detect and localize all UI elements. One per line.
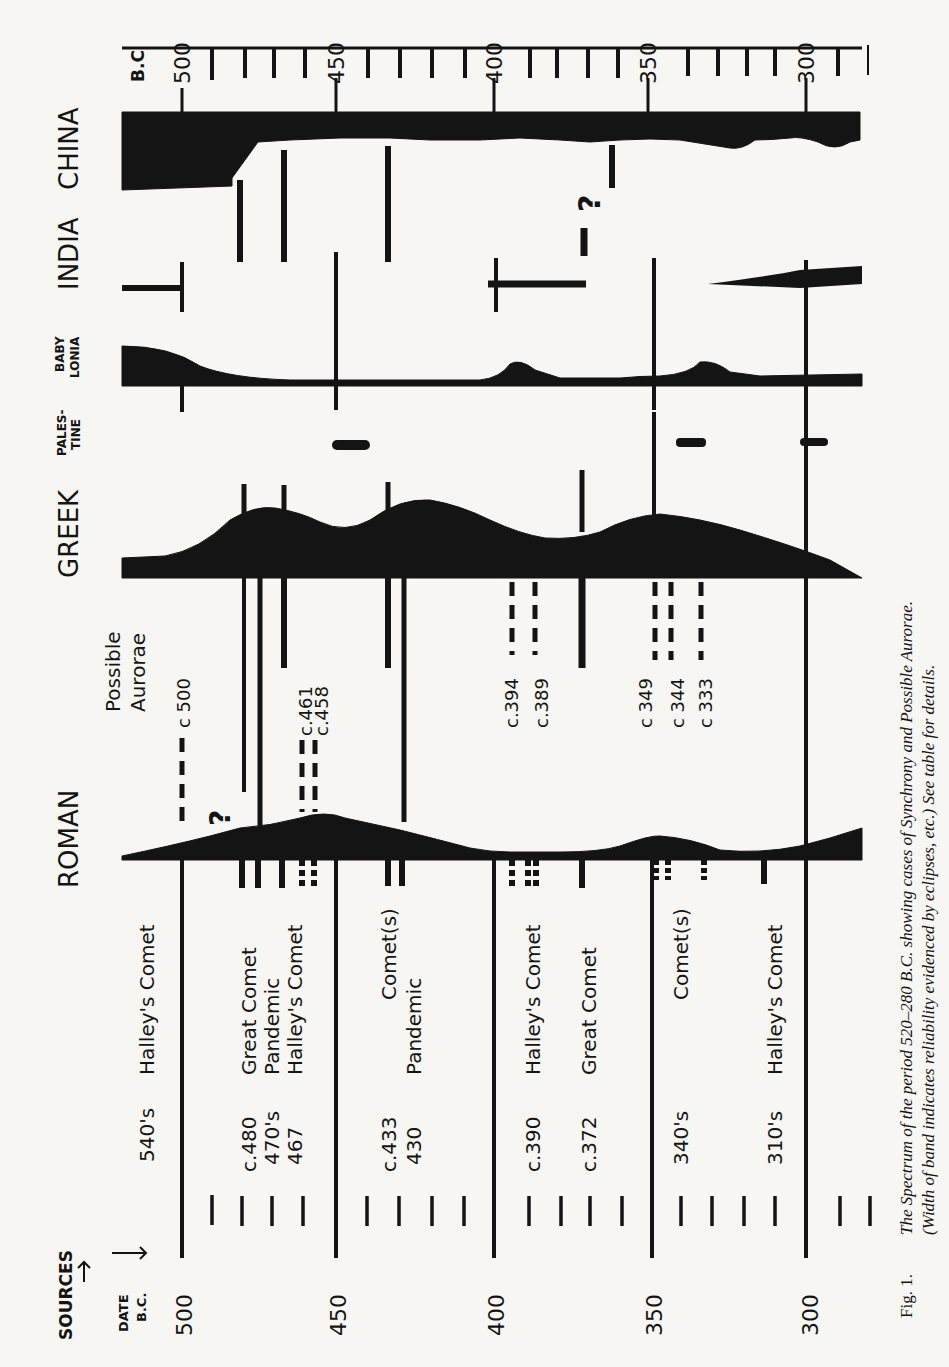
band-label-china: CHINA xyxy=(54,107,84,190)
svg-text:Aurorae: Aurorae xyxy=(126,633,150,712)
svg-text:430: 430 xyxy=(402,1127,426,1165)
china-uncertain-mark: ? xyxy=(572,195,607,212)
event-label: Halley's Comet xyxy=(135,924,159,1075)
svg-text:450: 450 xyxy=(324,42,349,84)
svg-text:c.390: c.390 xyxy=(521,1116,545,1172)
caption-line-1: The Spectrum of the period 520–280 B.C. … xyxy=(897,601,916,1235)
svg-text:c.389: c.389 xyxy=(531,678,552,728)
svg-text:350: 350 xyxy=(642,1294,667,1336)
svg-text:400: 400 xyxy=(482,42,507,84)
svg-text:DATE: DATE xyxy=(116,1294,131,1332)
band-babylonia xyxy=(122,346,862,412)
band-label-roman: ROMAN xyxy=(54,790,84,888)
aurora-title: Possible xyxy=(101,631,125,712)
roman-uncertain-mark: ? xyxy=(204,810,237,826)
svg-text:B.C.: B.C. xyxy=(134,1293,149,1322)
svg-text:Halley's Comet: Halley's Comet xyxy=(283,924,307,1075)
band-label-babylonia: BABY xyxy=(53,336,67,372)
svg-text:Halley's Comet: Halley's Comet xyxy=(763,924,787,1075)
roman-source-ticks xyxy=(242,860,764,888)
event-date: 540's xyxy=(135,1108,159,1162)
svg-text:c.480: c.480 xyxy=(237,1116,261,1172)
caption-fig-number: Fig. 1. xyxy=(897,1274,916,1318)
svg-text:300: 300 xyxy=(798,1294,823,1336)
top-axis-unit: B.C xyxy=(128,50,148,82)
synchrony-figure: B.C 500 450 400 350 300 ? xyxy=(0,0,949,1367)
svg-text:c 349: c 349 xyxy=(635,678,656,728)
svg-text:Great Comet: Great Comet xyxy=(577,947,601,1075)
svg-text:500: 500 xyxy=(170,42,195,84)
svg-text:c.433: c.433 xyxy=(377,1116,401,1172)
svg-text:c 344: c 344 xyxy=(667,678,688,728)
svg-text:Comet(s): Comet(s) xyxy=(377,908,401,1000)
svg-text:SOURCES: SOURCES xyxy=(56,1250,76,1340)
svg-text:300: 300 xyxy=(794,42,819,84)
figure-caption: Fig. 1. The Spectrum of the period 520–2… xyxy=(897,601,938,1318)
svg-text:c.458: c.458 xyxy=(311,686,332,736)
band-greek xyxy=(122,470,862,578)
svg-text:467: 467 xyxy=(283,1127,307,1165)
svg-text:310's: 310's xyxy=(763,1111,787,1165)
svg-text:Comet(s): Comet(s) xyxy=(669,908,693,1000)
svg-text:Pandemic: Pandemic xyxy=(260,978,284,1075)
aurora-labels: Possible Aurorae c 500 c.461 c.458 c.394… xyxy=(101,631,716,736)
svg-text:Halley's Comet: Halley's Comet xyxy=(521,924,545,1075)
band-palestine xyxy=(332,438,828,450)
band-india xyxy=(122,252,862,412)
svg-text:450: 450 xyxy=(326,1294,351,1336)
band-china xyxy=(122,112,860,262)
svg-text:470's: 470's xyxy=(260,1111,284,1165)
svg-text:350: 350 xyxy=(636,42,661,84)
svg-text:c 500: c 500 xyxy=(173,678,194,728)
caption-line-2: (Width of band indicates reliability evi… xyxy=(919,665,938,1235)
svg-text:400: 400 xyxy=(484,1294,509,1336)
band-label-palestine: PALES- xyxy=(55,410,69,456)
bottom-axis-header: SOURCES DATE B.C. xyxy=(56,1250,149,1340)
band-labels: ROMAN GREEK PALES- TINE BABY LONIA INDIA… xyxy=(53,107,84,888)
band-label-india: INDIA xyxy=(54,217,84,290)
svg-text:c 333: c 333 xyxy=(695,678,716,728)
svg-text:Great Comet: Great Comet xyxy=(237,947,261,1075)
svg-text:c.394: c.394 xyxy=(501,678,522,728)
header-arrows xyxy=(78,1247,146,1282)
svg-text:TINE: TINE xyxy=(69,419,83,450)
svg-text:c.372: c.372 xyxy=(577,1116,601,1172)
svg-text:LONIA: LONIA xyxy=(68,336,82,378)
band-label-greek: GREEK xyxy=(54,489,84,578)
svg-text:500: 500 xyxy=(172,1294,197,1336)
svg-text:Pandemic: Pandemic xyxy=(402,978,426,1075)
event-labels: 540's Halley's Comet c.480 Great Comet 4… xyxy=(135,908,787,1172)
svg-text:340's: 340's xyxy=(669,1111,693,1165)
bottom-axis-labels: 500 450 400 350 300 xyxy=(172,1294,823,1336)
